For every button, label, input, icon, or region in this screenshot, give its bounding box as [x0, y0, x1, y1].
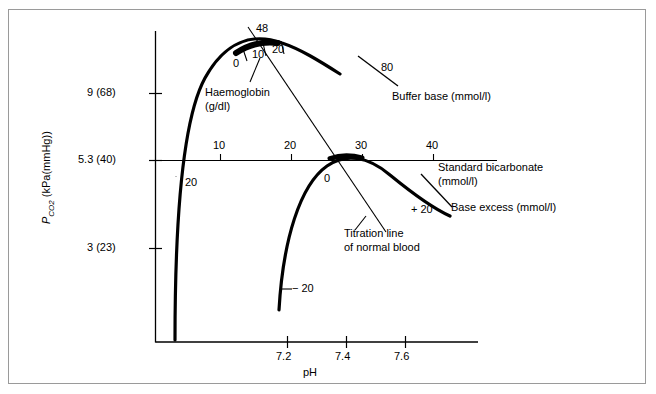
- y-tick-label-3: 3 (23): [87, 241, 116, 255]
- titration-line-label-2: of normal blood: [344, 241, 420, 255]
- y-axis-title-units: (kPa(mmHg)): [40, 131, 52, 200]
- x-tick-label-7-4: 7.4: [335, 350, 350, 364]
- titration-line-label-1: Titration line: [344, 227, 404, 241]
- x-tick-label-7-6: 7.6: [394, 350, 409, 364]
- standard-bicarbonate-label: Standard bicarbonate: [438, 161, 543, 175]
- base-excess-label: Base excess (mmol/l): [451, 201, 556, 215]
- figure-page: PCO2 (kPa(mmHg)) 9 (68) 5.3 (40) 3 (23) …: [0, 0, 656, 394]
- haemoglobin-value-10: 10: [252, 48, 264, 62]
- y-axis-title-p: P: [40, 217, 52, 224]
- buffer-base-label: Buffer base (mmol/l): [392, 90, 491, 104]
- standard-bicarbonate-units: (mmol/l): [438, 175, 478, 189]
- y-axis-title-co: CO: [47, 205, 56, 217]
- y-tick-label-5-3: 5.3 (40): [78, 153, 116, 167]
- y-axis-title-2: 2: [47, 200, 56, 204]
- base-excess-value-minus20: − 20: [292, 282, 314, 296]
- buffer-base-value-48: 48: [256, 22, 268, 36]
- left-curve-value-20: 20: [185, 176, 197, 190]
- sb-tick-label-40: 40: [426, 139, 438, 153]
- base-excess-value-plus20: + 20: [411, 203, 433, 217]
- x-axis-title: pH: [303, 366, 317, 380]
- nomogram-plot: [0, 0, 656, 394]
- haemoglobin-value-0: 0: [233, 57, 239, 71]
- base-excess-value-0: 0: [324, 172, 330, 186]
- haemoglobin-label: Haemoglobin: [205, 86, 270, 100]
- sb-tick-label-20: 20: [284, 139, 296, 153]
- y-tick-label-9: 9 (68): [87, 86, 116, 100]
- haemoglobin-value-20: 20: [272, 43, 284, 57]
- sb-tick-label-10: 10: [213, 139, 225, 153]
- buffer-base-curve: [175, 39, 340, 340]
- haemoglobin-units: (g/dl): [205, 100, 230, 114]
- x-tick-label-7-2: 7.2: [276, 350, 291, 364]
- y-axis-title: PCO2 (kPa(mmHg)): [40, 108, 55, 248]
- titration-line: [248, 27, 386, 232]
- buffer-base-value-80: 80: [381, 61, 393, 75]
- sb-tick-label-30: 30: [355, 139, 367, 153]
